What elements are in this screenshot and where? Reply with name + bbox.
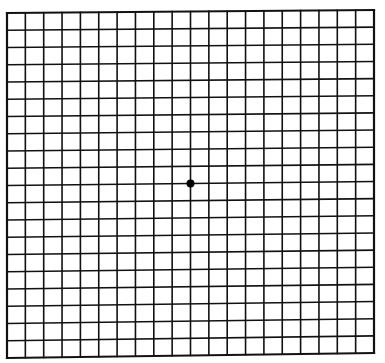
amsler-grid <box>0 0 385 363</box>
grid-canvas <box>0 0 385 363</box>
center-fixation-dot <box>187 180 195 188</box>
